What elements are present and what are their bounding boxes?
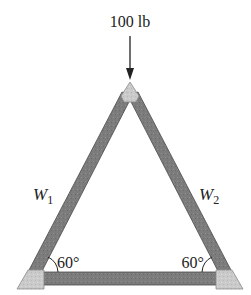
load-label: 100 lb	[110, 13, 150, 30]
member-label-w1: W1	[33, 185, 53, 207]
member-w2	[128, 92, 232, 275]
member-w1	[28, 92, 132, 275]
load-arrow-icon	[126, 36, 134, 80]
member-label-w2: W2	[199, 185, 219, 207]
gusset-bottom-right	[216, 270, 243, 289]
angle-label-left: 60°	[57, 254, 79, 271]
member-base	[40, 272, 220, 285]
member-label-w1-sub: 1	[47, 193, 53, 207]
angle-label-right: 60°	[182, 254, 204, 271]
member-label-w2-sub: 2	[213, 193, 219, 207]
truss-diagram: 100 lb 60° 60° W1 W2	[0, 0, 251, 295]
gusset-bottom-left	[17, 270, 44, 289]
gusset-apex	[121, 82, 139, 102]
